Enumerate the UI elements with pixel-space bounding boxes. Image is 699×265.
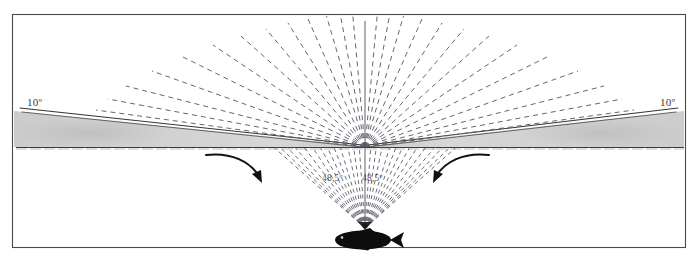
wedge-smudge-left [10,118,170,148]
curved-arrow-left-icon [206,154,259,176]
incident-ray-L8 [312,147,365,228]
incident-ray-R9 [365,147,426,228]
incident-ray-R8 [365,147,418,228]
refracted-ray-R6 [365,29,464,147]
refracted-ray-L2 [340,14,365,147]
fish-icon [335,222,404,251]
incident-ray-R1 [365,147,371,228]
refracted-ray-L4 [308,19,365,147]
incident-ray-L11 [287,147,365,228]
diagram-canvas [0,0,699,265]
water-surface [16,148,684,150]
fish-tail [390,232,404,248]
incident-ray-R10 [365,147,435,228]
fish-body [335,231,391,250]
incident-ray-L1 [359,147,365,228]
fish-eye [341,236,344,239]
snells-window-figure: 10º 10º 48,5º 48,5º [0,0,699,265]
incident-ray-L10 [295,147,365,228]
refracted-ray-R4 [365,19,422,147]
refracted-ray-R2 [365,14,390,147]
incident-ray-R7 [365,147,410,228]
incident-ray-L12 [280,147,365,228]
incident-ray-R11 [365,147,443,228]
incident-ray-R12 [365,147,450,228]
refracted-ray-L6 [266,29,365,147]
incident-ray-L7 [320,147,365,228]
incident-ray-L9 [304,147,365,228]
refracted-ray-L7 [241,36,365,147]
refracted-ray-R7 [365,36,489,147]
curved-arrow-right-head [433,170,443,183]
direction-arrows [206,154,489,183]
incident-ray-R13 [365,147,457,228]
curved-arrow-left-head [252,170,262,183]
incident-ray-L13 [274,147,366,228]
